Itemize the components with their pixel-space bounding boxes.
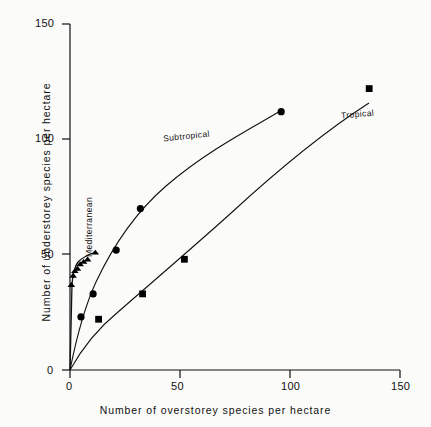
data-point — [278, 108, 285, 115]
x-tick-label-0: 0 — [66, 380, 72, 392]
curve-tropical — [70, 103, 369, 370]
x-tick-label-150: 150 — [391, 380, 410, 392]
x-tick-label-50: 50 — [171, 380, 184, 392]
data-point — [113, 246, 120, 253]
data-point — [366, 85, 373, 92]
y-axis-title: Number of understorey species per hectar… — [40, 52, 52, 352]
chart-figure: 0 50 100 150 0 50 100 150 Number of over… — [0, 0, 431, 427]
data-point — [181, 256, 188, 263]
data-point — [77, 313, 84, 320]
scatter-plot — [0, 0, 431, 427]
y-tick-label-0: 0 — [47, 364, 53, 376]
axis-lines — [70, 24, 400, 370]
data-point — [137, 205, 144, 212]
curve-label-mediterranean: Mediterranean — [84, 197, 94, 257]
markers-tropical — [95, 85, 372, 322]
data-point — [68, 282, 76, 287]
data-point — [90, 290, 97, 297]
x-tick-label-100: 100 — [281, 380, 300, 392]
data-point — [139, 290, 146, 297]
axis-ticks — [62, 24, 400, 378]
y-tick-label-150: 150 — [35, 17, 54, 29]
curve-subtropical — [70, 110, 282, 370]
x-axis-title: Number of overstorey species per hectare — [0, 404, 431, 416]
data-point — [95, 316, 102, 323]
